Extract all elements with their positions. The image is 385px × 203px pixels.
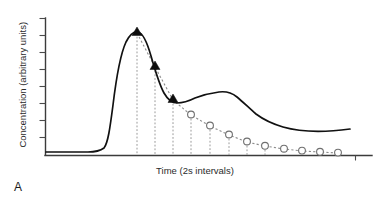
circle-marker	[244, 138, 251, 145]
axes-group	[45, 18, 372, 156]
y-axis-label: Concentration (arbitrary units)	[18, 10, 28, 160]
x-axis-label: Time (2s intervals)	[40, 165, 350, 176]
circle-marker	[207, 122, 214, 129]
solid-concentration-trace	[46, 32, 350, 152]
triangle-marker	[168, 94, 178, 103]
circle-marker	[281, 145, 288, 152]
circle-marker	[317, 148, 324, 155]
figure-panel: Concentration (arbitrary units) Time (2s…	[0, 0, 385, 203]
triangle-drop-lines	[137, 33, 173, 155]
dotted-decay-trace	[137, 33, 338, 153]
triangle-marker	[150, 61, 160, 70]
circle-marker	[299, 147, 306, 154]
triangle-marker	[132, 27, 142, 36]
circle-marker	[226, 131, 233, 138]
circle-marker	[262, 142, 269, 149]
filled-triangle-markers	[132, 27, 178, 103]
panel-label: A	[14, 180, 22, 194]
circle-marker	[335, 149, 342, 156]
circle-marker	[188, 111, 195, 118]
open-circle-markers	[188, 111, 342, 156]
y-axis-ticks	[40, 19, 46, 138]
